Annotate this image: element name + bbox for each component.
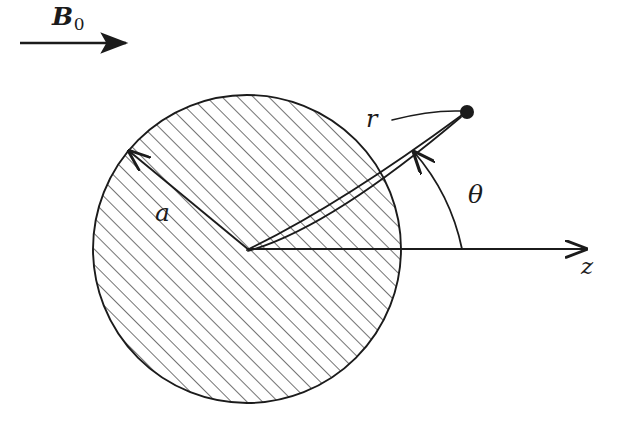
physics-diagram: [0, 0, 621, 444]
radius-label: a: [155, 198, 170, 227]
field-subscript: 0: [74, 14, 85, 34]
theta-arc: [414, 152, 462, 249]
z-axis-label: z: [581, 253, 593, 279]
polar-angle-label: θ: [468, 180, 483, 209]
field-symbol: B: [52, 2, 73, 31]
radial-coordinate-label: r: [366, 105, 377, 133]
field-point-dot: [460, 105, 474, 119]
applied-field-label: B0: [52, 2, 84, 34]
r-leader-line: [392, 111, 461, 120]
